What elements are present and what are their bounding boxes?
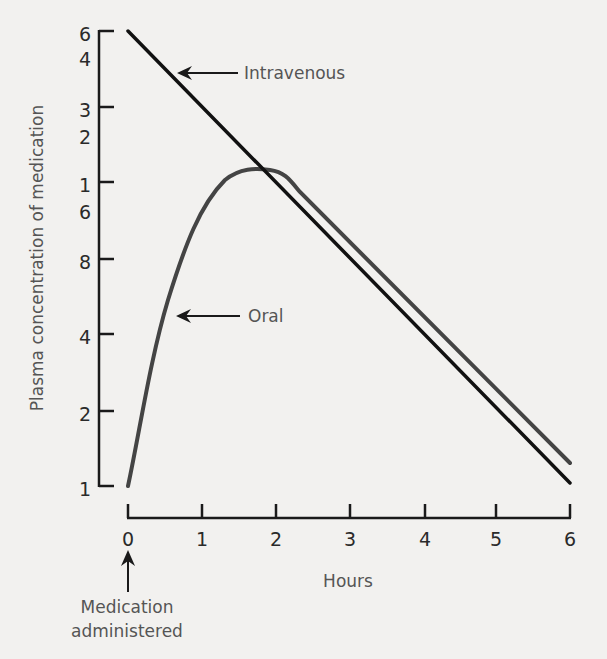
- oral-annotation: Oral: [176, 306, 284, 326]
- oral-curve: [128, 169, 570, 486]
- y-tick-label: 1: [79, 174, 91, 196]
- y-tick-label: 4: [79, 326, 91, 348]
- y-tick-label: 6: [79, 23, 91, 45]
- x-tick-label: 5: [490, 528, 502, 550]
- x-tick-label: 2: [270, 528, 282, 550]
- x-axis-label: Hours: [323, 571, 373, 591]
- x-axis: [127, 504, 571, 518]
- administered-label-line1: Medication: [81, 597, 174, 617]
- oral-label: Oral: [248, 306, 284, 326]
- pharmacokinetics-chart: 6 4 3 2 1 6 8 4 2 1 Plasma concentration…: [0, 0, 607, 659]
- y-tick-label: 1: [79, 478, 91, 500]
- x-tick-label: 4: [419, 528, 431, 550]
- y-tick-label: 3: [79, 99, 91, 121]
- x-tick-labels: 0 1 2 3 4 5 6: [122, 528, 576, 550]
- x-tick-label: 1: [196, 528, 208, 550]
- x-tick-label: 0: [122, 528, 134, 550]
- intravenous-label: Intravenous: [244, 63, 345, 83]
- y-tick-label: 8: [79, 251, 91, 273]
- y-tick-label: 6: [79, 201, 91, 223]
- y-axis-label: Plasma concentration of medication: [27, 105, 47, 411]
- y-tick-label: 4: [79, 48, 91, 70]
- y-axis: [99, 30, 114, 487]
- intravenous-line: [128, 31, 570, 483]
- administered-label-line2: administered: [71, 621, 183, 641]
- x-tick-label: 6: [564, 528, 576, 550]
- x-tick-label: 3: [344, 528, 356, 550]
- y-tick-label: 2: [79, 403, 91, 425]
- intravenous-annotation: Intravenous: [177, 63, 345, 83]
- administration-annotation: Medication administered: [71, 550, 183, 641]
- y-tick-label: 2: [79, 126, 91, 148]
- y-tick-labels: 6 4 3 2 1 6 8 4 2 1: [79, 23, 91, 500]
